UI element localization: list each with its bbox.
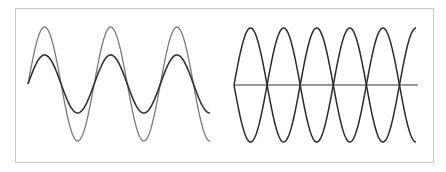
panel-amplitude-comparison (28, 27, 210, 141)
large-amplitude-wave (28, 27, 210, 141)
waves-figure (0, 0, 446, 172)
panel-antiphase-comparison (234, 28, 418, 142)
small-amplitude-wave (28, 55, 210, 113)
